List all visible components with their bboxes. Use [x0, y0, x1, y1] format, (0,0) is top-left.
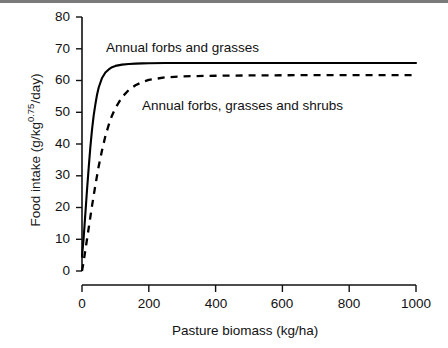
x-tick-label-400: 400	[186, 296, 246, 311]
y-axis-title-main: Food intake (g/kg	[28, 122, 43, 226]
y-axis-title-exponent: 0.75	[25, 104, 36, 123]
series-line-annual-forbs-and-grasses	[82, 63, 416, 257]
x-tick-label-0: 0	[52, 296, 112, 311]
chart-figure: 80 70 60 50 40 30 20 10 0 0 200 400 600 …	[0, 0, 448, 348]
y-axis-title-wrapper: Food intake (g/kg0.75/day)	[0, 0, 36, 300]
x-tick-label-1000: 1000	[386, 296, 446, 311]
y-axis-title: Food intake (g/kg0.75/day)	[25, 25, 43, 275]
series-annotation-annual-forbs-and-grasses: Annual forbs and grasses	[106, 40, 259, 55]
y-axis-ticks	[76, 17, 82, 271]
x-tick-label-800: 800	[319, 296, 379, 311]
series-annotation-annual-forbs-grasses-and-shrubs: Annual forbs, grasses and shrubs	[142, 98, 343, 113]
x-axis-ticks	[82, 285, 416, 292]
y-axis-title-tail: /day)	[28, 74, 43, 104]
x-tick-label-600: 600	[252, 296, 312, 311]
x-axis-title: Pasture biomass (kg/ha)	[172, 323, 318, 338]
axis-lines	[82, 17, 416, 285]
x-tick-label-200: 200	[119, 296, 179, 311]
